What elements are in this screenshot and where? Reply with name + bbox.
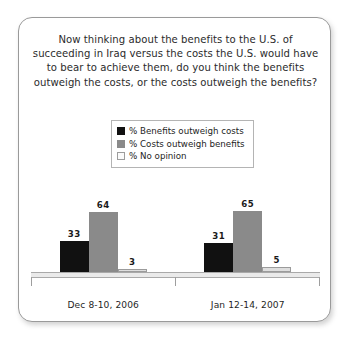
chart-title: Now thinking about the benefits to the U… [31, 33, 320, 90]
bar-rect[interactable] [60, 241, 89, 272]
axis-tick-middle [175, 277, 176, 286]
bar-rect[interactable] [204, 243, 233, 272]
chart-card: Now thinking about the benefits to the U… [18, 17, 331, 322]
bar-groups: 3364331655 [31, 178, 320, 272]
bar-value-label: 3 [129, 257, 135, 267]
bar-item[interactable]: 3 [118, 178, 147, 272]
category-labels: Dec 8-10, 2006Jan 12-14, 2007 [31, 300, 320, 310]
bar-item[interactable]: 5 [262, 178, 291, 272]
bar-group-bars: 33643 [31, 178, 176, 272]
legend-item-costs: % Costs outweigh benefits [117, 138, 245, 151]
bar-value-label: 5 [274, 255, 280, 265]
legend-label-benefits: % Benefits outweigh costs [129, 125, 244, 138]
bar-item[interactable]: 31 [204, 178, 233, 272]
bar-value-label: 64 [97, 200, 110, 210]
legend-item-no-opinion: % No opinion [117, 150, 245, 163]
chart-plot-area: 3364331655 [31, 178, 320, 288]
legend-swatch-light-icon [117, 152, 125, 160]
legend-label-no-opinion: % No opinion [129, 150, 187, 163]
axis-tick-start [31, 277, 32, 286]
bar-item[interactable]: 64 [89, 178, 118, 272]
bar-group: 31655 [176, 178, 321, 272]
bar-rect[interactable] [233, 211, 262, 272]
bar-group: 33643 [31, 178, 176, 272]
legend-swatch-gray-icon [117, 140, 125, 148]
bar-rect[interactable] [89, 212, 118, 272]
axis-tick-end [319, 277, 320, 286]
chart-legend: % Benefits outweigh costs % Costs outwei… [111, 120, 254, 168]
category-label: Dec 8-10, 2006 [31, 300, 176, 310]
bar-item[interactable]: 65 [233, 178, 262, 272]
chart-page: Now thinking about the benefits to the U… [0, 0, 349, 341]
bar-value-label: 33 [68, 229, 81, 239]
bar-value-label: 65 [241, 199, 254, 209]
legend-label-costs: % Costs outweigh benefits [129, 138, 245, 151]
bar-item[interactable]: 33 [60, 178, 89, 272]
bar-group-bars: 31655 [176, 178, 321, 272]
legend-item-benefits: % Benefits outweigh costs [117, 125, 245, 138]
legend-swatch-black-icon [117, 127, 125, 135]
category-label: Jan 12-14, 2007 [176, 300, 321, 310]
bar-value-label: 31 [212, 231, 225, 241]
